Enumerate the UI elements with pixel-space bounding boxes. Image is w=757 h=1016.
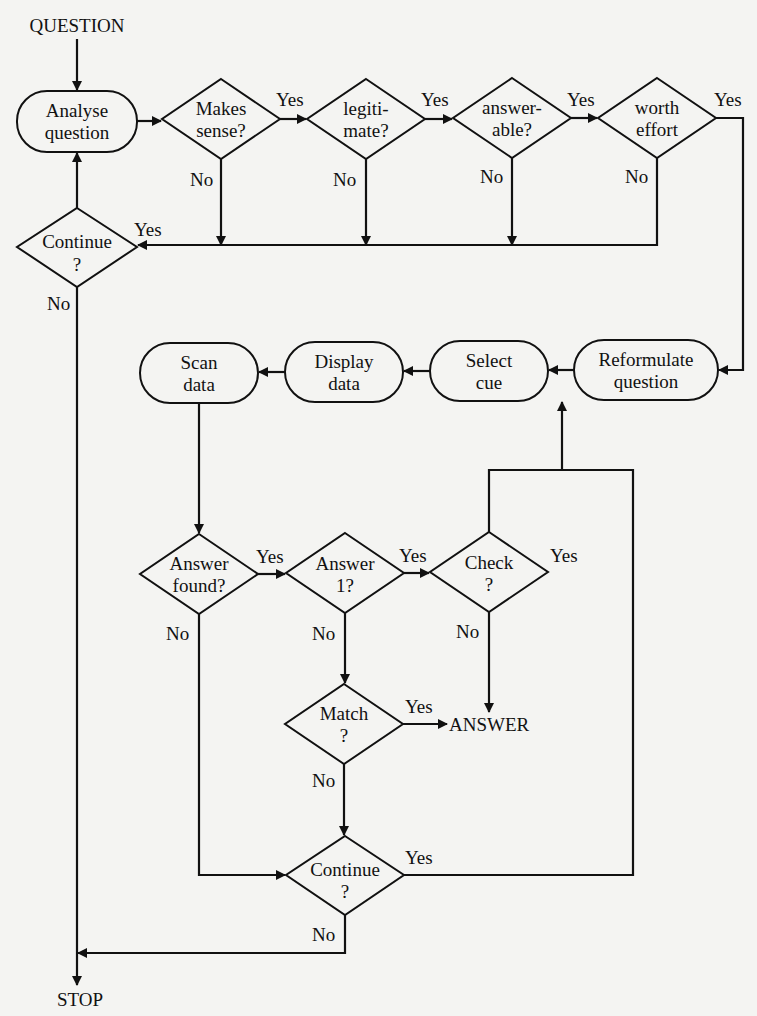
terminal-question: QUESTION — [30, 15, 125, 36]
svg-text:effort: effort — [636, 119, 679, 140]
svg-text:?: ? — [73, 254, 81, 275]
decision-answer-1: Answer 1? — [286, 533, 404, 613]
label-legitimate-no: No — [333, 169, 356, 190]
process-display-data: Display data — [285, 342, 403, 402]
svg-text:Reformulate: Reformulate — [599, 349, 694, 370]
edge-continue-bottom-no — [78, 915, 345, 953]
label-continue-bottom-no: No — [312, 924, 335, 945]
label-legitimate-yes: Yes — [421, 89, 449, 110]
label-answer-found-yes: Yes — [256, 546, 284, 567]
svg-text:Check: Check — [465, 552, 514, 573]
decision-makes-sense: Makes sense? — [162, 79, 280, 159]
svg-text:data: data — [328, 373, 360, 394]
svg-text:1?: 1? — [336, 575, 354, 596]
svg-text:Answer: Answer — [169, 553, 229, 574]
label-answerable-no: No — [480, 166, 503, 187]
svg-text:Match: Match — [320, 703, 369, 724]
svg-text:Select: Select — [466, 350, 513, 371]
svg-text:question: question — [45, 122, 110, 143]
svg-text:Answer: Answer — [315, 553, 375, 574]
svg-text:data: data — [183, 374, 215, 395]
svg-text:sense?: sense? — [196, 120, 246, 141]
terminal-answer: ANSWER — [449, 714, 530, 735]
label-check-no: No — [456, 621, 479, 642]
decision-continue-bottom: Continue ? — [286, 836, 404, 915]
svg-text:?: ? — [340, 725, 348, 746]
label-answerable-yes: Yes — [567, 89, 595, 110]
decision-check: Check ? — [430, 532, 548, 612]
label-makes-sense-yes: Yes — [276, 89, 304, 110]
label-match-yes: Yes — [405, 696, 433, 717]
edge-loop-frame — [404, 470, 633, 875]
process-select-cue: Select cue — [430, 341, 548, 401]
svg-text:able?: able? — [492, 119, 532, 140]
decision-match: Match ? — [285, 684, 403, 764]
svg-text:answer-: answer- — [482, 97, 542, 118]
svg-text:cue: cue — [476, 372, 502, 393]
svg-text:?: ? — [341, 881, 349, 902]
svg-text:Analyse: Analyse — [46, 100, 108, 121]
flowchart: QUESTION ANSWER STOP Analyse question Re… — [0, 0, 757, 1016]
svg-text:found?: found? — [173, 575, 226, 596]
decision-continue-top: Continue ? — [17, 208, 137, 287]
decision-answerable: answer- able? — [453, 78, 571, 158]
edge-worth-effort-yes — [716, 118, 743, 370]
edge-worth-effort-no-collector — [138, 158, 657, 245]
decision-legitimate: legiti- mate? — [307, 79, 425, 159]
process-analyse-question: Analyse question — [17, 91, 137, 152]
label-match-no: No — [312, 770, 335, 791]
decision-answer-found: Answer found? — [140, 534, 258, 614]
label-check-yes: Yes — [550, 545, 578, 566]
svg-text:Makes: Makes — [196, 98, 247, 119]
label-answer-1-yes: Yes — [399, 545, 427, 566]
terminal-stop: STOP — [57, 989, 103, 1010]
decision-worth-effort: worth effort — [598, 78, 716, 158]
label-continue-top-yes: Yes — [134, 219, 162, 240]
svg-text:worth: worth — [635, 97, 680, 118]
svg-text:legiti-: legiti- — [343, 98, 388, 119]
label-worth-effort-yes: Yes — [714, 89, 742, 110]
svg-text:?: ? — [485, 574, 493, 595]
edge-answer-found-no — [199, 614, 285, 875]
process-scan-data: Scan data — [140, 343, 258, 403]
label-continue-top-no: No — [47, 293, 70, 314]
svg-text:Scan: Scan — [181, 352, 218, 373]
label-continue-bottom-yes: Yes — [405, 847, 433, 868]
svg-text:Display: Display — [314, 351, 374, 372]
process-reformulate-question: Reformulate question — [574, 340, 718, 400]
label-makes-sense-no: No — [190, 169, 213, 190]
label-worth-effort-no: No — [625, 166, 648, 187]
svg-text:question: question — [614, 371, 679, 392]
label-answer-found-no: No — [166, 623, 189, 644]
svg-text:Continue: Continue — [310, 859, 380, 880]
svg-text:Continue: Continue — [42, 231, 112, 252]
label-answer-1-no: No — [312, 623, 335, 644]
svg-text:mate?: mate? — [343, 120, 388, 141]
